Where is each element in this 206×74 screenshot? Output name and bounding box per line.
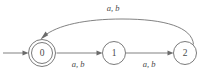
state-q0[interactable]: 0 [29,40,56,67]
automaton-diagram: a, b a, b a, b 0 1 2 [0,0,206,74]
transition-q2-q0-curve [44,19,194,45]
state-q1[interactable]: 1 [103,42,126,65]
transition-q0-q1-label: a, b [72,59,85,69]
transition-q1-q2-arrowhead [168,51,174,56]
automaton-figure: a, b a, b a, b 0 1 2 [0,0,206,74]
transition-q1-q2: a, b [126,51,174,69]
transition-q0-q1-arrowhead [97,51,103,56]
transition-q2-q0: a, b [41,3,194,45]
transition-q0-q1: a, b [57,51,103,69]
start-arrow-head [23,51,29,56]
transition-q2-q0-label: a, b [107,3,120,13]
state-q0-label: 0 [40,48,45,58]
state-q2[interactable]: 2 [174,42,197,65]
transition-q1-q2-label: a, b [143,59,156,69]
start-arrow [3,51,29,56]
transition-q2-q0-arrowhead [41,32,49,40]
state-q1-label: 1 [112,48,117,58]
state-q2-label: 2 [183,48,188,58]
